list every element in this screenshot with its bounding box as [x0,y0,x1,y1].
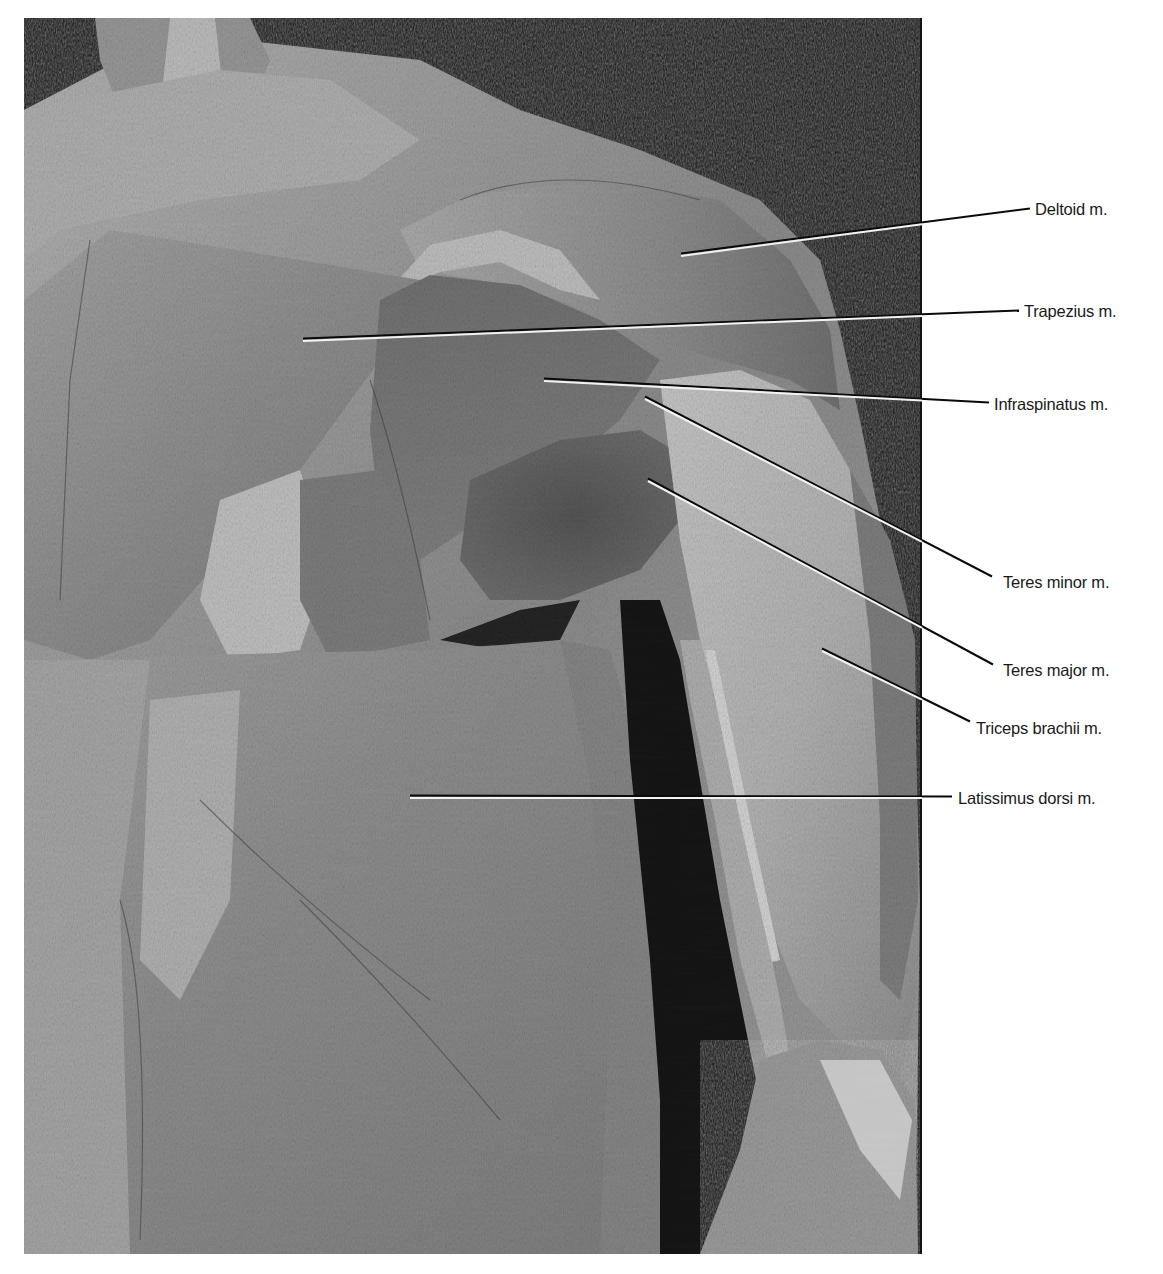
label-teres-minor: Teres minor m. [1003,572,1109,592]
leader-line-deltoid [681,209,1030,257]
label-teres-major: Teres major m. [1003,660,1109,680]
label-triceps-brachii: Triceps brachii m. [976,718,1102,738]
label-trapezius: Trapezius m. [1024,301,1116,321]
leader-line-triceps-brachii [822,649,970,722]
anatomy-figure: Deltoid m. Trapezius m. Infraspinatus m.… [0,0,1163,1274]
leader-line-teres-minor [645,397,992,577]
leader-line-trapezius [303,311,1019,342]
leader-line-latissimus-dorsi [410,796,952,799]
label-latissimus-dorsi: Latissimus dorsi m. [958,788,1095,808]
leader-lines [0,0,1163,1274]
leader-line-infraspinatus [544,379,989,403]
label-deltoid: Deltoid m. [1035,199,1107,219]
leader-line-teres-major [648,479,993,665]
label-infraspinatus: Infraspinatus m. [994,394,1108,414]
